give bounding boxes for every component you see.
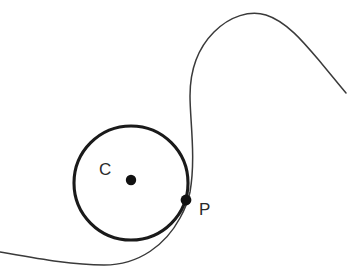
tangency-point-P	[181, 195, 192, 206]
point-label-P: P	[199, 201, 210, 218]
center-point-C	[126, 175, 136, 185]
geometry-figure: the curve at point P . C P	[0, 0, 356, 276]
center-label-C: C	[99, 161, 111, 178]
figure-canvas	[0, 0, 356, 276]
